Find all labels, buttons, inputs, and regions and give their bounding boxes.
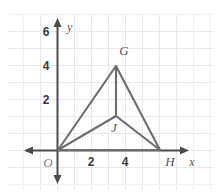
vertex-label-J: J	[111, 120, 118, 135]
figure-canvas: 6 4 2 2 4 y x O G H J	[0, 0, 216, 195]
y-axis-top-arrowhead	[54, 18, 62, 27]
y-axis-bottom-arrowhead	[54, 175, 62, 184]
y-axis	[54, 18, 62, 184]
vertex-label-H: H	[164, 154, 175, 169]
grid-horizontal-lines	[8, 15, 214, 185]
segment-OG	[58, 66, 116, 150]
x-axis-name-label: x	[188, 155, 195, 169]
coordinate-plane-figure: 6 4 2 2 4 y x O G H J	[0, 0, 216, 195]
segment-GH	[116, 66, 160, 150]
y-axis-name-label: y	[66, 20, 73, 34]
y-tick-label-2: 2	[43, 93, 50, 107]
y-tick-label-6: 6	[43, 25, 50, 39]
x-tick-label-2: 2	[88, 155, 95, 169]
x-axis-left-arrowhead	[24, 147, 33, 155]
vertex-label-G: G	[119, 43, 129, 58]
x-axis-right-arrowhead	[180, 147, 189, 155]
x-tick-label-4: 4	[122, 155, 129, 169]
y-tick-label-4: 4	[43, 59, 50, 73]
origin-point-label: O	[43, 155, 53, 170]
